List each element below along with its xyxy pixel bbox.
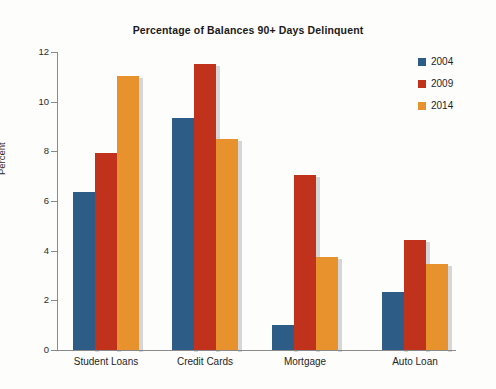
bar (382, 292, 404, 350)
bar-fill (73, 192, 95, 350)
legend-item: 2009 (418, 74, 492, 94)
bar (272, 325, 294, 350)
bar (95, 153, 117, 350)
plot-area (57, 52, 455, 350)
y-axis-tick-label: 0 (3, 344, 49, 355)
chart-legend: 200420092014 (418, 52, 492, 118)
bar (404, 240, 426, 351)
y-axis-tick-label: 10 (3, 96, 49, 107)
bar (172, 118, 194, 350)
bar-shadow (139, 78, 143, 352)
legend-label: 2004 (431, 57, 453, 67)
legend-color-swatch (418, 102, 426, 110)
bar-fill (404, 240, 426, 351)
bar (216, 139, 238, 350)
bar-fill (426, 264, 448, 350)
bar-fill (95, 153, 117, 350)
bar-chart-figure: Percentage of Balances 90+ Days Delinque… (0, 0, 496, 389)
legend-label: 2009 (431, 79, 453, 89)
bar (426, 264, 448, 350)
bar-fill (216, 139, 238, 350)
bar-shadow (338, 259, 342, 352)
chart-title: Percentage of Balances 90+ Days Delinque… (0, 24, 496, 36)
bar (73, 192, 95, 350)
legend-label: 2014 (431, 101, 453, 111)
y-axis-tick-label: 2 (3, 294, 49, 305)
bar (316, 257, 338, 350)
bar-fill (272, 325, 294, 350)
legend-color-swatch (418, 58, 426, 66)
x-axis-category-label: Mortgage (245, 356, 365, 367)
bar-fill (294, 175, 316, 350)
legend-color-swatch (418, 80, 426, 88)
bar-fill (172, 118, 194, 350)
bar (117, 76, 139, 350)
bar-shadow (448, 266, 452, 352)
y-axis-tick-label: 4 (3, 245, 49, 256)
legend-item: 2004 (418, 52, 492, 72)
bar (294, 175, 316, 350)
y-axis-tick-label: 8 (3, 145, 49, 156)
bar-fill (194, 64, 216, 350)
bar-shadow (238, 141, 242, 352)
bar-fill (117, 76, 139, 350)
y-axis-tick-label: 12 (3, 46, 49, 57)
x-axis-category-label: Auto Loan (355, 356, 475, 367)
bar (194, 64, 216, 350)
bar-fill (382, 292, 404, 350)
legend-item: 2014 (418, 96, 492, 116)
bar-fill (316, 257, 338, 350)
y-axis-tick-label: 6 (3, 195, 49, 206)
